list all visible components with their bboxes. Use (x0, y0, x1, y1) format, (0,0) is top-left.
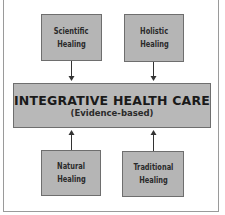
connector-arrows (0, 0, 225, 215)
arrowhead-down-icon (69, 76, 75, 81)
arrowhead-up-icon (151, 130, 157, 135)
arrowhead-down-icon (151, 76, 157, 81)
arrowhead-up-icon (69, 130, 75, 135)
